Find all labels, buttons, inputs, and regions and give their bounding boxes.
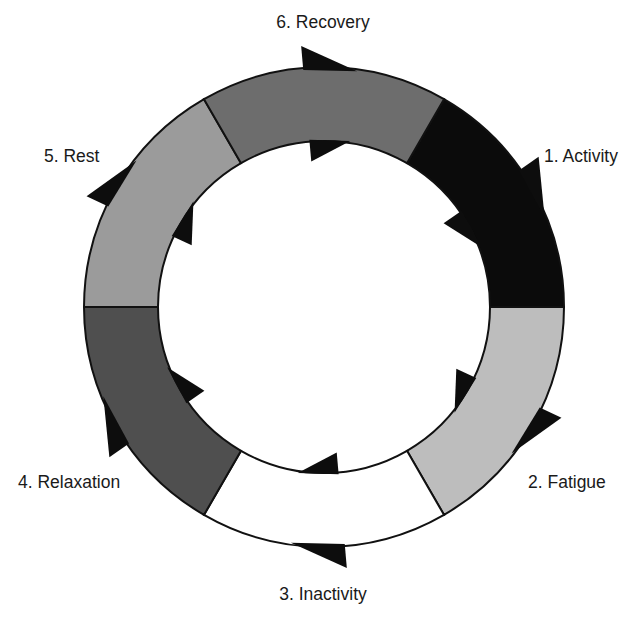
label-activity: 1. Activity (544, 146, 618, 166)
label-fatigue: 2. Fatigue (528, 472, 606, 492)
ring-segments (84, 67, 564, 547)
arrow-outer-recovery-icon (301, 46, 357, 71)
label-rest: 5. Rest (44, 146, 100, 166)
label-inactivity: 3. Inactivity (279, 584, 367, 604)
cycle-diagram: 1. Activity 2. Fatigue 3. Inactivity 4. … (0, 0, 644, 617)
label-relaxation: 4. Relaxation (18, 472, 120, 492)
arrow-inner-inactivity-icon (298, 452, 339, 474)
label-recovery: 6. Recovery (276, 12, 370, 32)
arrow-inner-recovery-icon (309, 140, 350, 162)
